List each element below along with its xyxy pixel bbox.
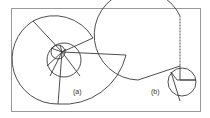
panel-b-label: (b) [151, 88, 160, 95]
panel-a-drawing [12, 16, 126, 105]
spiral-diagram [0, 0, 210, 118]
panel-b-drawing [94, 0, 196, 101]
panel-a-label: (a) [73, 88, 82, 95]
